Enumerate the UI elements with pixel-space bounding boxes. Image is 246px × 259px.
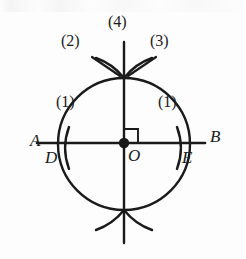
label-step-2: (2): [61, 33, 80, 49]
label-point-d: D: [45, 149, 57, 166]
label-point-o: O: [128, 147, 140, 164]
leader-line-step-3: [128, 57, 156, 76]
label-point-e: E: [182, 149, 192, 166]
label-point-b: B: [210, 128, 220, 145]
geometry-figure: A B D E O (1) (2) (3) (4) (1): [0, 0, 246, 259]
label-step-1-right: (1): [158, 94, 177, 110]
label-step-4: (4): [108, 14, 127, 30]
label-step-1-left: (1): [56, 94, 75, 110]
arc-3-bottom-wing: [124, 210, 152, 230]
arc-1-tick-d: [65, 127, 69, 169]
label-point-a: A: [30, 132, 40, 149]
arc-1-tick-e: [177, 127, 181, 169]
label-step-3: (3): [150, 33, 169, 49]
arc-2-bottom-wing: [96, 210, 124, 230]
leader-line-step-2: [92, 57, 120, 76]
